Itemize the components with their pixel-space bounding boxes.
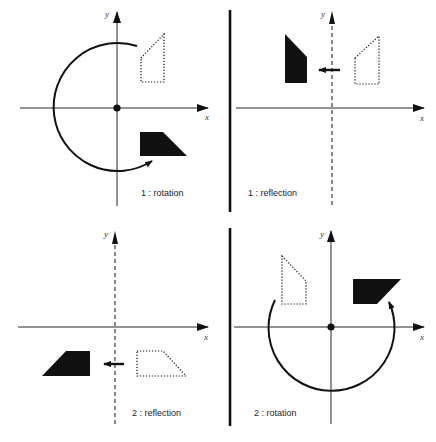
panel-3-reflection: y x 2 : reflection <box>18 229 208 424</box>
reflected-shape-filled <box>42 351 90 376</box>
y-axis-arrowhead <box>112 231 118 244</box>
original-shape-dotted <box>355 36 379 84</box>
rotated-shape-filled <box>353 279 401 304</box>
x-axis-label: x <box>419 113 424 123</box>
x-axis-label: x <box>204 112 209 122</box>
original-shape-dotted <box>137 351 186 376</box>
rotated-shape-filled <box>140 132 187 156</box>
y-axis-label: y <box>104 9 109 19</box>
panel-label: 1 : rotation <box>141 188 184 198</box>
original-shape-dotted <box>141 34 164 82</box>
x-axis-label: x <box>419 332 424 342</box>
origin-dot <box>113 104 120 111</box>
original-shape-dotted <box>282 256 306 304</box>
y-axis-arrowhead <box>329 11 335 24</box>
rotation-arc-arrow <box>54 43 152 171</box>
rotation-arc-arrow <box>269 300 395 391</box>
panel-2-reflection: y x 1 : reflection <box>236 9 424 205</box>
y-axis-label: y <box>320 9 325 19</box>
reflected-shape-filled <box>285 34 307 83</box>
y-axis-label: y <box>103 229 108 239</box>
transformations-figure: y x 1 : rotation y x 1 : reflection y x … <box>0 0 436 442</box>
panel-4-rotation: y x 2 : rotation <box>234 229 424 424</box>
y-axis-label: y <box>319 229 324 239</box>
panel-label: 2 : rotation <box>254 408 297 418</box>
panel-1-rotation: y x 1 : rotation <box>20 9 209 206</box>
x-axis-label: x <box>203 332 208 342</box>
panel-label: 2 : reflection <box>132 408 181 418</box>
panel-label: 1 : reflection <box>248 188 297 198</box>
origin-dot <box>327 323 334 330</box>
